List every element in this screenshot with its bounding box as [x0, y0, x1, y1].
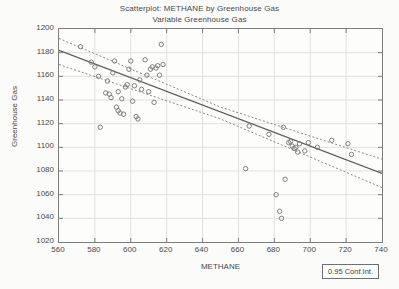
y-tick-label: 1200 [36, 24, 54, 32]
y-tick-label: 1100 [37, 142, 54, 150]
x-tick-label: 600 [123, 246, 136, 254]
legend-conf-int[interactable]: 0.95 Conf.Int. [322, 264, 379, 279]
y-axis-title: Greenhouse Gas [10, 67, 19, 167]
y-tick-label: 1060 [36, 190, 54, 198]
data-points [78, 42, 353, 220]
scatterplot-screenshot: Scatterplot: METHANE by Greenhouse Gas V… [0, 0, 399, 289]
x-tick-label: 580 [87, 246, 100, 254]
y-tick-label: 1180 [37, 48, 54, 56]
chart-subtitle: Variable Greenhouse Gas [0, 14, 399, 25]
y-tick-label: 1120 [37, 119, 54, 127]
y-tick-label: 1160 [37, 71, 54, 79]
x-tick-label: 740 [374, 246, 387, 254]
plot-area[interactable] [58, 28, 383, 243]
x-tick-label: 720 [338, 246, 351, 254]
x-tick-label: 700 [303, 246, 316, 254]
regression-line [59, 50, 382, 173]
page-title: Scatterplot: METHANE by Greenhouse Gas [0, 3, 399, 14]
y-tick-label: 1040 [36, 213, 54, 221]
caption-sliver [0, 283, 399, 289]
x-tick-label: 620 [159, 246, 172, 254]
y-tick-label: 1080 [36, 166, 54, 174]
x-tick-label: 560 [51, 246, 64, 254]
x-tick-label: 640 [195, 246, 208, 254]
chart-title-block: Scatterplot: METHANE by Greenhouse Gas V… [0, 3, 399, 25]
confidence-band [59, 38, 382, 187]
y-tick-label: 1140 [37, 95, 54, 103]
x-tick-label: 680 [267, 246, 280, 254]
grid-lines [59, 29, 382, 242]
x-axis-tick-labels: 560580600620640660680700720740 [0, 246, 399, 260]
x-tick-label: 660 [231, 246, 244, 254]
y-tick-label: 1020 [36, 237, 54, 245]
plot-canvas [59, 29, 382, 242]
